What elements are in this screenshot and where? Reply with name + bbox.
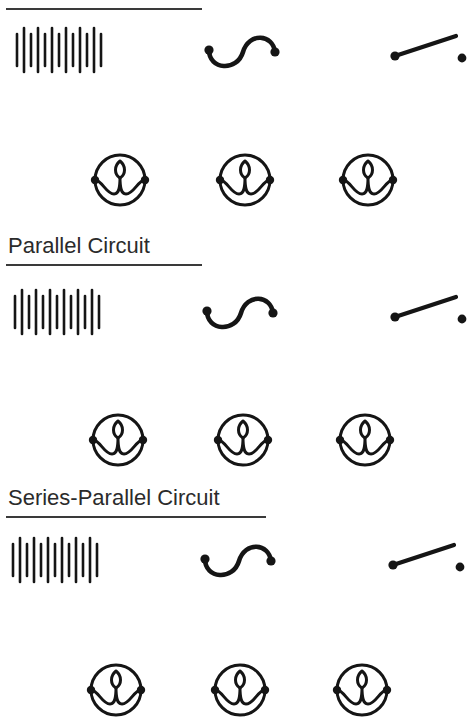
section-3-heading-underline bbox=[6, 516, 266, 518]
open-switch-symbol bbox=[388, 291, 468, 327]
section-2-heading-underline bbox=[6, 264, 202, 266]
section-3-heading: Series-Parallel Circuit bbox=[8, 486, 220, 510]
wire-scurve-symbol bbox=[199, 539, 279, 583]
battery-cells-symbol bbox=[12, 288, 102, 336]
wire-scurve-symbol bbox=[201, 291, 281, 335]
open-switch-symbol bbox=[386, 539, 466, 575]
lamp-symbol bbox=[208, 658, 272, 721]
section-2-heading: Parallel Circuit bbox=[8, 234, 150, 258]
lamp-symbol bbox=[88, 148, 152, 212]
lamp-symbol bbox=[211, 408, 275, 472]
lamp-symbol bbox=[213, 148, 277, 212]
lamp-symbol bbox=[86, 408, 150, 472]
battery-cells-symbol bbox=[10, 536, 100, 584]
section-1-heading-underline bbox=[6, 8, 202, 10]
battery-cells-symbol bbox=[14, 26, 104, 74]
wire-scurve-symbol bbox=[203, 30, 283, 74]
open-switch-symbol bbox=[388, 30, 468, 66]
lamp-symbol bbox=[330, 658, 394, 721]
lamp-symbol bbox=[84, 658, 148, 721]
lamp-symbol bbox=[336, 148, 400, 212]
lamp-symbol bbox=[333, 408, 397, 472]
